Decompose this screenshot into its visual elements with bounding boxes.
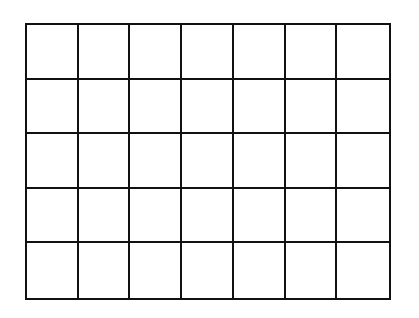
grid-cell	[286, 80, 338, 135]
grid-cell	[234, 134, 286, 189]
grid-cell	[27, 80, 79, 135]
grid-cell	[234, 80, 286, 135]
grid-cell	[27, 189, 79, 244]
grid-cell	[182, 80, 234, 135]
grid-cell	[337, 189, 389, 244]
grid-cell	[27, 243, 79, 298]
grid-cell	[337, 80, 389, 135]
grid-cell	[337, 25, 389, 80]
grid-cell	[182, 243, 234, 298]
grid-cell	[79, 25, 131, 80]
grid-cell	[234, 189, 286, 244]
grid-cell	[234, 25, 286, 80]
grid-cell	[130, 134, 182, 189]
grid-cell	[79, 189, 131, 244]
grid-cell	[182, 25, 234, 80]
grid-cell	[79, 80, 131, 135]
grid-cell	[130, 80, 182, 135]
grid-cell	[234, 243, 286, 298]
grid-cell	[130, 25, 182, 80]
grid-cell	[130, 189, 182, 244]
grid-cell	[130, 243, 182, 298]
grid-cell	[27, 25, 79, 80]
grid-cell	[286, 25, 338, 80]
grid-cell	[182, 189, 234, 244]
grid-cell	[337, 243, 389, 298]
empty-grid	[25, 23, 391, 300]
grid-cell	[79, 134, 131, 189]
grid-cell	[286, 189, 338, 244]
grid-cell	[182, 134, 234, 189]
grid-cell	[79, 243, 131, 298]
grid-cell	[286, 243, 338, 298]
grid-cell	[27, 134, 79, 189]
grid-cell	[286, 134, 338, 189]
grid-cell	[337, 134, 389, 189]
